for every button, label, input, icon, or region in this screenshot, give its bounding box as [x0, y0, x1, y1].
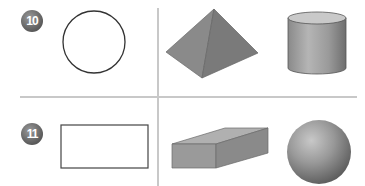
horizontal-divider	[20, 96, 357, 98]
cylinder-shape	[286, 8, 348, 78]
problem-number-badge: 10	[21, 10, 43, 32]
rectangle-shape	[60, 124, 150, 170]
circle-shape	[60, 10, 130, 76]
sphere-shape	[285, 119, 353, 185]
pyramid-shape	[163, 8, 263, 83]
problem-number-badge: 11	[21, 123, 43, 145]
rectangular-prism-shape	[170, 125, 270, 175]
